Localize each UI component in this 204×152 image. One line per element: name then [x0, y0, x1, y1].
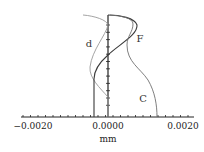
curve-label-F: F	[137, 33, 144, 44]
curve-C	[110, 15, 157, 117]
curve-d	[83, 15, 108, 117]
x-tick-label-pos: 0.0020	[167, 121, 199, 131]
curve-label-d: d	[86, 38, 92, 49]
x-axis-title: mm	[99, 134, 116, 144]
x-tick-label-zero: 0.0000	[92, 121, 124, 131]
x-tick-label-neg: −0.0020	[13, 121, 52, 131]
curve-label-C: C	[139, 93, 147, 104]
curve-F	[94, 15, 137, 117]
